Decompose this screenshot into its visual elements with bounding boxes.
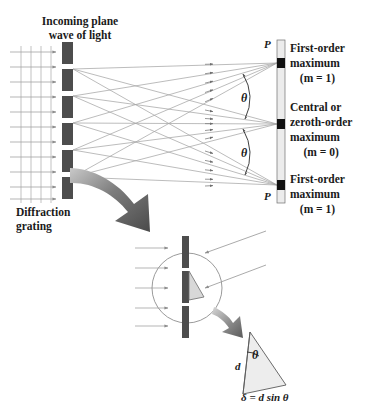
path-difference-triangle: [243, 332, 286, 394]
theta-lower-label: θ: [241, 146, 247, 160]
central-line1: Central or: [290, 100, 352, 115]
viewing-screen: [277, 40, 285, 203]
diffraction-grating-label-line2: grating: [16, 219, 70, 233]
inset-path-difference-triangle: [189, 271, 204, 300]
wavefront-lines: [21, 46, 51, 203]
maximum-spot-first-order-top: [277, 58, 285, 68]
point-p-top-label: P: [264, 38, 271, 51]
diffraction-grating-label: Diffraction grating: [16, 205, 70, 233]
triangle-d-label: d: [235, 360, 241, 373]
maximum-spot-first-order-bottom: [277, 180, 285, 190]
central-zeroth-order-maximum-label: Central or zeroth-order maximum (m = 0): [290, 100, 352, 160]
first-order-bottom-line2: maximum: [290, 187, 345, 202]
first-order-top-order: (m = 1): [290, 71, 345, 86]
diffraction-grating-figure: Incoming plane wave of light Diffraction…: [0, 0, 371, 404]
inset-grating-bars: [182, 236, 189, 338]
first-order-maximum-bottom-label: First-order maximum (m = 1): [290, 172, 345, 217]
central-line3: maximum: [290, 130, 352, 145]
incoming-wave-label-line2: wave of light: [16, 28, 144, 42]
point-p-bottom-label: P: [264, 190, 271, 203]
inset-outgoing-rays: [205, 231, 266, 288]
first-order-bottom-line1: First-order: [290, 172, 345, 187]
first-order-bottom-order: (m = 1): [290, 202, 345, 217]
incoming-rays: [10, 52, 56, 199]
central-order: (m = 0): [290, 145, 352, 160]
zoom-block-arrow-main: [70, 168, 150, 232]
theta-upper-label: θ: [241, 91, 247, 105]
inset-incoming-rays: [135, 248, 168, 326]
incoming-wave-label: Incoming plane wave of light: [16, 14, 144, 42]
triangle-theta-label: θ: [252, 348, 258, 362]
diffraction-grating-label-line1: Diffraction: [16, 205, 70, 219]
central-line2: zeroth-order: [290, 115, 352, 130]
zoom-block-arrow-inset: [212, 307, 243, 338]
first-order-top-line2: maximum: [290, 56, 345, 71]
first-order-maximum-top-label: First-order maximum (m = 1): [290, 41, 345, 86]
maximum-spot-central: [277, 119, 285, 129]
incoming-wave-label-line1: Incoming plane: [16, 14, 144, 28]
path-difference-formula-label: δ = d sin θ: [241, 391, 289, 404]
first-order-top-line1: First-order: [290, 41, 345, 56]
